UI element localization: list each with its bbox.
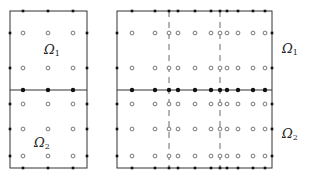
interior-node (153, 31, 157, 35)
interior-node (263, 127, 267, 131)
interior-node (167, 66, 171, 70)
interior-node (251, 127, 255, 131)
boundary-node (219, 10, 222, 13)
boundary-node (131, 167, 134, 170)
interior-node (209, 154, 213, 158)
interior-node (225, 66, 229, 70)
right-mesh-panel (116, 10, 274, 170)
interior-node (225, 102, 229, 106)
boundary-node (271, 67, 274, 70)
interior-node (130, 102, 134, 106)
boundary-node (72, 10, 75, 13)
interior-node (251, 31, 255, 35)
interior-node (193, 154, 197, 158)
interior-node (251, 102, 255, 106)
interface-node (218, 88, 222, 92)
interface-node (71, 88, 75, 92)
interior-node (176, 127, 180, 131)
interface-node (21, 88, 25, 92)
interior-node (130, 127, 134, 131)
interior-node (167, 154, 171, 158)
boundary-node (194, 167, 197, 170)
interior-node (153, 127, 157, 131)
boundary-node (9, 67, 12, 70)
boundary-node (237, 10, 240, 13)
interior-node (263, 154, 267, 158)
boundary-node (86, 67, 89, 70)
interior-node (153, 102, 157, 106)
interior-node (46, 66, 50, 70)
boundary-node (271, 128, 274, 131)
interior-node (193, 102, 197, 106)
boundary-node (237, 167, 240, 170)
interior-node (71, 127, 75, 131)
interior-node (71, 66, 75, 70)
boundary-node (226, 10, 229, 13)
boundary-node (22, 167, 25, 170)
boundary-node (9, 32, 12, 35)
interior-node (218, 66, 222, 70)
interior-node (21, 154, 25, 158)
boundary-node (86, 32, 89, 35)
boundary-node (210, 167, 213, 170)
interior-node (176, 31, 180, 35)
interior-node (263, 66, 267, 70)
interior-node (46, 31, 50, 35)
subdomain-label-omega2: Ω2 (282, 127, 298, 142)
interior-node (21, 66, 25, 70)
interior-node (167, 31, 171, 35)
boundary-node (177, 167, 180, 170)
boundary-node (86, 155, 89, 158)
interior-node (21, 31, 25, 35)
boundary-node (47, 10, 50, 13)
boundary-node (86, 103, 89, 106)
boundary-node (252, 10, 255, 13)
interface-node (263, 88, 267, 92)
boundary-node (271, 155, 274, 158)
interior-node (21, 127, 25, 131)
interior-node (176, 154, 180, 158)
interior-node (218, 31, 222, 35)
interface-node (153, 88, 157, 92)
boundary-node (177, 10, 180, 13)
interior-node (193, 31, 197, 35)
interior-node (153, 66, 157, 70)
boundary-node (116, 32, 119, 35)
boundary-node (210, 10, 213, 13)
interior-node (71, 31, 75, 35)
interior-node (209, 31, 213, 35)
interior-node (263, 102, 267, 106)
boundary-node (116, 67, 119, 70)
interior-node (46, 127, 50, 131)
interior-node (251, 66, 255, 70)
subdomain-label-omega2: Ω2 (34, 136, 50, 151)
boundary-node (116, 155, 119, 158)
interior-node (71, 102, 75, 106)
boundary-node (271, 103, 274, 106)
boundary-node (226, 167, 229, 170)
interior-node (130, 31, 134, 35)
interface-node (225, 88, 229, 92)
interface-node (130, 88, 134, 92)
interior-node (193, 127, 197, 131)
interior-node (209, 127, 213, 131)
subdomain-label-omega1: Ω1 (282, 42, 298, 57)
boundary-node (252, 167, 255, 170)
interior-node (71, 154, 75, 158)
interior-node (251, 154, 255, 158)
interior-node (46, 102, 50, 106)
interface-node (167, 88, 171, 92)
boundary-node (9, 103, 12, 106)
interior-node (236, 102, 240, 106)
subdomain-label-omega1: Ω1 (44, 43, 60, 58)
interface-node (236, 88, 240, 92)
interface-node (251, 88, 255, 92)
interface-node (209, 88, 213, 92)
interface-node (176, 88, 180, 92)
interior-node (236, 127, 240, 131)
interior-node (176, 66, 180, 70)
boundary-node (168, 10, 171, 13)
boundary-node (219, 167, 222, 170)
interior-node (167, 102, 171, 106)
interior-node (236, 31, 240, 35)
